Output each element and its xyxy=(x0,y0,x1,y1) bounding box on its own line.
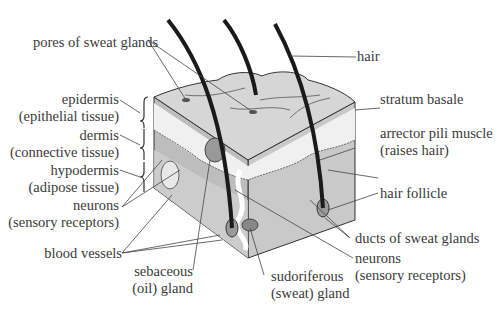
label-hair: hair xyxy=(357,48,380,65)
label-pores-of-sweat-glands: pores of sweat glands xyxy=(33,34,158,51)
label-dermis: dermis xyxy=(80,127,119,144)
label-neurons-left-receptors: (sensory receptors) xyxy=(8,214,119,231)
adipose-lobule xyxy=(161,161,179,189)
label-sebaceous: sebaceous xyxy=(134,263,193,280)
label-raises-hair: (raises hair) xyxy=(380,142,449,159)
label-hair-follicle: hair follicle xyxy=(380,185,447,202)
hypodermis-brace xyxy=(140,162,144,192)
label-dermis-tissue: (connective tissue) xyxy=(10,144,119,161)
label-sudoriferous-sweat-gland: (sweat) gland xyxy=(271,285,350,302)
label-arrector-pili-muscle: arrector pili muscle xyxy=(380,125,493,142)
skin-diagram: pores of sweat glands hair epidermis (ep… xyxy=(0,0,501,315)
label-blood-vessels: blood vessels xyxy=(44,245,122,262)
dermis-brace xyxy=(140,129,144,160)
label-stratum-basale: stratum basale xyxy=(380,91,463,108)
label-sebaceous-oil-gland: (oil) gland xyxy=(132,280,193,297)
label-hypodermis: hypodermis xyxy=(51,162,119,179)
epidermis-brace xyxy=(140,97,148,128)
label-epidermis-tissue: (epithelial tissue) xyxy=(19,108,119,125)
label-ducts-of-sweat-glands: ducts of sweat glands xyxy=(355,230,479,247)
label-epidermis: epidermis xyxy=(62,91,119,108)
label-neurons-right: neurons xyxy=(355,250,401,267)
label-sudoriferous: sudoriferous xyxy=(271,268,344,285)
label-neurons-left: neurons xyxy=(73,197,119,214)
label-neurons-right-receptors: (sensory receptors) xyxy=(355,267,466,284)
label-hypodermis-tissue: (adipose tissue) xyxy=(28,179,119,196)
